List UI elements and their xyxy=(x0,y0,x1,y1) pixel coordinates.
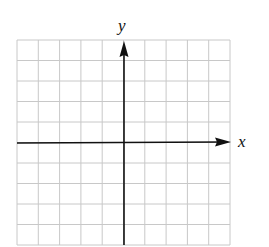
y-axis-label: y xyxy=(118,17,126,34)
x-axis xyxy=(17,142,222,143)
coordinate-plane xyxy=(0,0,269,247)
y-axis-arrow-icon xyxy=(120,41,129,57)
x-axis-arrow-icon xyxy=(215,138,231,147)
x-axis-label: x xyxy=(238,133,246,150)
